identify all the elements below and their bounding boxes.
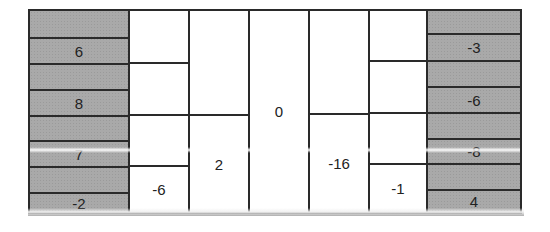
grid-cell: -3 <box>428 33 520 60</box>
grid-cell <box>428 112 520 138</box>
grid-cell <box>370 112 426 163</box>
grid-cell <box>30 11 128 37</box>
grid-cell <box>30 115 128 140</box>
column-5: -16 <box>308 11 368 212</box>
grid-cell: 2 <box>190 114 248 212</box>
grid-cell <box>370 60 426 112</box>
grid-cell <box>130 11 188 62</box>
right-gray-column: -3 -6 -8 4 <box>426 11 520 212</box>
grid-cell: 4 <box>428 189 520 212</box>
grid-cell <box>190 11 248 114</box>
grid-cell <box>428 60 520 86</box>
column-4: 0 <box>248 11 308 212</box>
grid-cell <box>30 63 128 89</box>
grid-cell: -2 <box>30 192 128 212</box>
column-6: -1 <box>368 11 426 212</box>
left-gray-column: 6 8 7 -2 <box>30 11 128 212</box>
grid-cell: 8 <box>30 89 128 115</box>
grid-cell <box>428 163 520 189</box>
grid-cell <box>130 114 188 165</box>
grid-cell: 0 <box>250 11 308 212</box>
column-2: -6 <box>128 11 188 212</box>
grid-cell: -6 <box>130 165 188 212</box>
grid-cell <box>310 11 368 113</box>
grid-cell <box>428 11 520 33</box>
number-grid: 6 8 7 -2 -6 2 0 -16 -1 -3 -6 <box>28 9 522 214</box>
grid-cell <box>30 166 128 192</box>
grid-cell <box>370 11 426 60</box>
grid-cell <box>130 62 188 114</box>
grid-cell: -16 <box>310 113 368 212</box>
grid-cell: -6 <box>428 86 520 112</box>
grid-cell: 7 <box>30 140 128 166</box>
grid-cell: -1 <box>370 163 426 212</box>
grid-cell: 6 <box>30 37 128 63</box>
column-3: 2 <box>188 11 248 212</box>
grid-cell: -8 <box>428 138 520 163</box>
